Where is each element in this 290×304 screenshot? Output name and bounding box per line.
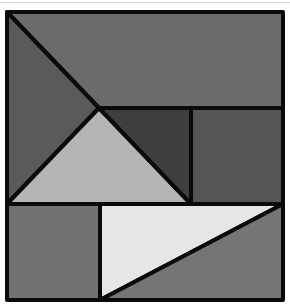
tangram-figure <box>0 0 290 304</box>
bottom-left-rectangle <box>7 204 100 300</box>
right-rectangle <box>191 108 283 204</box>
